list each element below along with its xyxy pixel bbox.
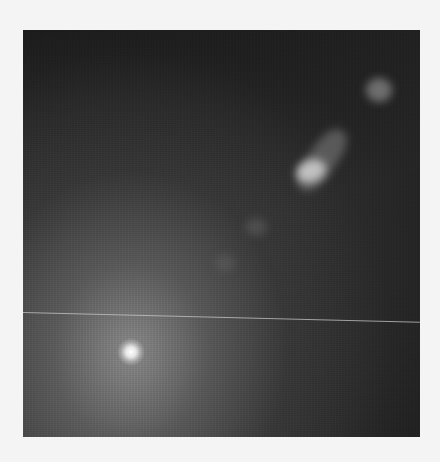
- galaxy-nucleus: [23, 30, 420, 437]
- galaxy-image: [23, 30, 420, 437]
